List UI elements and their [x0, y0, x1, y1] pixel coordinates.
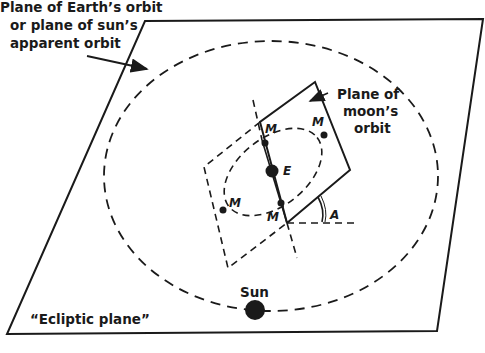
- angle-label: A: [329, 208, 339, 222]
- earth-plane-label-line2: or plane of sun’s: [10, 17, 138, 33]
- moon-label-top: M: [265, 122, 277, 136]
- sun-label: Sun: [240, 284, 269, 300]
- sun-dot: [245, 300, 265, 320]
- moon-dot-bottom: [278, 200, 285, 207]
- earth-dot: [266, 165, 279, 178]
- moon-dot-top: [262, 140, 269, 147]
- axis-line-bottom: [287, 223, 297, 258]
- ecliptic-plane-label: “Ecliptic plane”: [30, 311, 150, 327]
- moon-dot-left: [220, 207, 227, 214]
- moon-label-bottom: M: [267, 210, 279, 224]
- moon-label-right: M: [312, 115, 324, 129]
- moon-plane-label-line1: Plane of: [337, 86, 399, 102]
- angle-arc: [318, 197, 323, 222]
- moon-plane-label-line2: moon’s: [343, 103, 398, 119]
- moon-dot-right: [321, 132, 328, 139]
- moon-plane-outline: [260, 82, 350, 223]
- axis-line-top: [253, 100, 262, 140]
- moon-label-left: M: [229, 196, 241, 210]
- moon-plane-label-line3: orbit: [354, 120, 391, 136]
- earth-plane-arrow: [87, 56, 147, 69]
- moon-plane-hidden-outline: [204, 122, 287, 268]
- ecliptic-diagram: Plane of Earth’s orbit or plane of sun’s…: [0, 0, 485, 353]
- earth-plane-label-line3: apparent orbit: [10, 35, 121, 51]
- earth-plane-label-line1: Plane of Earth’s orbit: [0, 0, 163, 15]
- earth-label: E: [283, 164, 292, 178]
